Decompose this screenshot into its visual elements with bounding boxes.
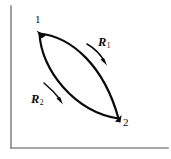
path-label-r2-subscript: 2: [40, 98, 44, 107]
point-label-2: 2: [123, 117, 129, 128]
axes-group: [11, 6, 168, 148]
path-label-r1-base: R: [98, 35, 106, 49]
path-label-r2: R2: [31, 93, 43, 106]
path-label-r1: R1: [98, 36, 110, 49]
arrow-head-r1: [101, 58, 108, 66]
arrow-head-r2: [57, 97, 64, 105]
path-label-r1-subscript: 1: [107, 41, 111, 50]
figure-container: 1 2 R1 R2: [0, 0, 171, 159]
direction-arrow-r2: [44, 83, 63, 105]
figure-canvas: [0, 0, 171, 159]
path-label-r2-base: R: [31, 92, 39, 106]
point-label-1: 1: [35, 14, 41, 25]
arrow-shaft-r2: [44, 83, 61, 100]
